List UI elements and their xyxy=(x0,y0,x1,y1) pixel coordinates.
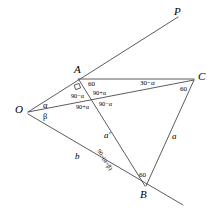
angle-label-60-at-A: 60 xyxy=(88,81,95,88)
angle-label-90-minus-alpha-right-at-A: 90−α xyxy=(99,101,112,107)
angle-label-alpha-at-O: α xyxy=(43,101,47,110)
vertex-label-P: P xyxy=(174,6,181,17)
angle-label-90-plus-alpha-lower-at-A: 90+α xyxy=(76,104,89,110)
vertex-label-C: C xyxy=(198,71,205,82)
angle-label-30-minus-alpha-at-C: 30−α xyxy=(140,80,155,87)
angle-label-beta-at-O: β xyxy=(43,112,47,121)
vertex-label-B: B xyxy=(140,189,147,200)
vertex-label-A: A xyxy=(74,64,81,75)
vertex-label-O: O xyxy=(15,104,23,115)
side-label-a-prime: a′ xyxy=(104,131,110,140)
angle-label-90-plus-alpha-upper-at-A: 90+α xyxy=(93,90,106,96)
angle-label-60-at-B: 60 xyxy=(139,172,146,179)
diagram-lines-svg xyxy=(0,0,216,224)
angle-label-60-at-C: 60 xyxy=(180,86,187,93)
angle-label-90-minus-alpha-left-at-A: 90−α xyxy=(71,93,84,99)
segment-C-to-B xyxy=(146,80,194,186)
geometry-diagram-canvas: O A C B P α β 60 90−α 90+α 90+α 90−α 30−… xyxy=(0,0,216,224)
side-label-b: b xyxy=(75,152,80,161)
side-label-a: a xyxy=(172,132,177,141)
right-angle-marker-at-A xyxy=(75,83,81,89)
